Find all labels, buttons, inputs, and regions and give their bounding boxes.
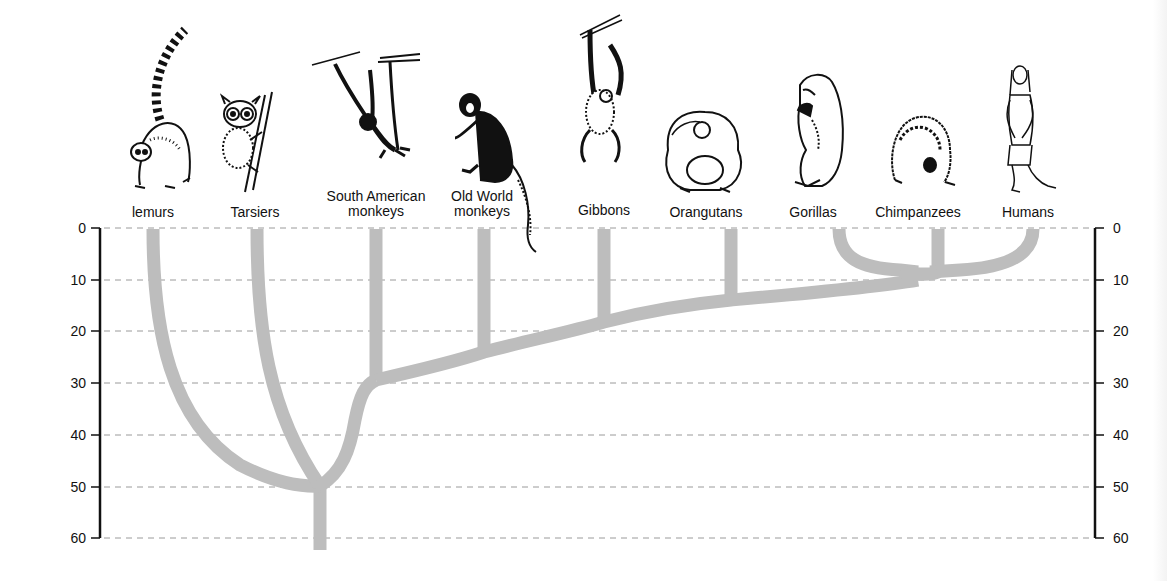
left-tick-40: 40 [46, 428, 86, 442]
phylogenetic-tree-branches [153, 229, 1033, 550]
gorilla-illustration [795, 75, 843, 186]
left-tick-30: 30 [46, 376, 86, 390]
taxon-label-tarsiers: Tarsiers [230, 205, 279, 220]
left-tick-10: 10 [46, 273, 86, 287]
orangutan-illustration [666, 112, 741, 192]
left-tick-0: 0 [46, 221, 86, 235]
taxon-label-humans: Humans [1002, 205, 1054, 220]
branch-hominine-node [900, 272, 938, 274]
chimpanzee-illustration [892, 117, 955, 185]
branch-gorillas [839, 229, 918, 272]
taxon-label-gorillas: Gorillas [789, 205, 836, 220]
taxon-label-gibbons: Gibbons [578, 203, 630, 218]
left-time-axis [91, 228, 100, 538]
right-tick-60: 60 [1113, 531, 1153, 545]
right-tick-30: 30 [1113, 376, 1153, 390]
branch-tarsiers [257, 229, 320, 486]
right-tick-50: 50 [1113, 480, 1153, 494]
human-illustration [1007, 66, 1056, 192]
right-tick-0: 0 [1113, 221, 1153, 235]
tarsier-illustration [222, 92, 272, 192]
right-tick-10: 10 [1113, 273, 1153, 287]
taxon-label-south-american-monkeys: South American monkeys [327, 189, 426, 219]
spider-monkey-illustration [312, 52, 420, 158]
left-tick-20: 20 [46, 324, 86, 338]
left-tick-50: 50 [46, 480, 86, 494]
right-tick-20: 20 [1113, 324, 1153, 338]
lemur-illustration [131, 30, 190, 188]
taxon-label-orangutans: Orangutans [669, 205, 742, 220]
branch-anthropoid-stem [320, 380, 376, 486]
gibbon-illustration [580, 15, 622, 162]
branch-humans [930, 229, 1033, 272]
primate-phylogeny-diagram: lemurs Tarsiers South American monkeys O… [0, 0, 1167, 581]
taxon-label-old-world-monkeys: Old World monkeys [451, 189, 513, 219]
right-tick-40: 40 [1113, 428, 1153, 442]
branch-catarrhine-stem [376, 280, 918, 380]
right-time-axis [1095, 228, 1104, 538]
left-tick-60: 60 [46, 531, 86, 545]
taxon-label-chimpanzees: Chimpanzees [875, 205, 961, 220]
diagram-canvas [0, 0, 1167, 581]
taxon-label-lemurs: lemurs [132, 205, 174, 220]
page-edge-shading [1153, 0, 1167, 581]
